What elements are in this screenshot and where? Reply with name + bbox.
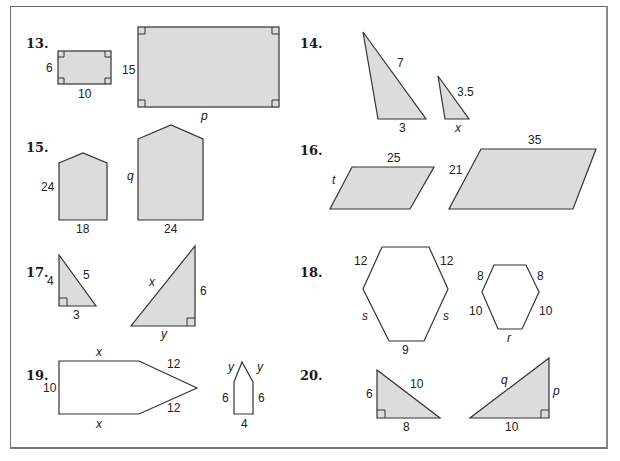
p20-small-horizontal-label: 8 [403,421,410,433]
p17-small-vertical-label: 4 [47,275,54,287]
p19-large-bottom-label: x [96,418,102,430]
p15-large-base-label: 24 [164,223,177,235]
p18-small-top-right-label: 8 [537,270,544,282]
p14-small-side-label: 3.5 [457,86,474,98]
problem-13-large-rectangle [138,27,279,107]
p15-small-height-label: 24 [41,181,54,193]
p20-small-vertical-label: 6 [366,388,373,400]
p20-large-horizontal-label: 10 [505,421,518,433]
p17-large-hypotenuse-label: x [149,276,155,288]
p14-small-base-label: x [455,122,461,134]
p19-large-left-label: 10 [43,382,56,394]
p13-large-width-label: p [201,110,208,122]
p14-large-base-label: 3 [399,122,406,134]
p16-large-side-label: 21 [449,164,462,176]
p17-large-horizontal-label: y [161,328,167,340]
problem-14-large-triangle [363,32,426,119]
p18-small-bottom-label: r [507,332,511,344]
p16-small-side-label: t [332,174,335,186]
p17-small-horizontal-label: 3 [73,309,80,321]
p14-large-side-label: 7 [397,57,404,69]
p18-small-top-left-label: 8 [477,270,484,282]
p18-small-bottom-left-label: 10 [469,305,482,317]
p16-small-top-label: 25 [387,152,400,164]
p13-large-height-label: 15 [122,64,135,76]
p19-small-right-slant-label: y [257,361,263,373]
problem-number-16: 16. [300,144,323,157]
problem-17-large-right-triangle [131,246,195,326]
problem-20-large-right-triangle [470,358,549,418]
p19-small-left-label: 6 [222,392,229,404]
p19-small-left-slant-label: y [228,361,234,373]
problem-18-small-hexagon [482,265,539,329]
figures-canvas [0,0,620,461]
problem-number-18: 18. [300,266,323,279]
p13-small-width-label: 10 [78,88,91,100]
p20-small-hypotenuse-label: 10 [410,378,423,390]
p20-large-vertical-label: p [553,385,560,397]
problem-18-large-hexagon [363,247,448,341]
p17-small-hypotenuse-label: 5 [83,269,90,281]
p18-large-bottom-right-label: s [443,310,449,322]
problem-16-large-parallelogram [449,149,596,209]
problem-number-13: 13. [26,37,49,50]
p18-large-bottom-label: 9 [402,344,409,356]
p15-small-base-label: 18 [76,223,89,235]
p19-large-upper-slant-label: 12 [167,358,180,370]
p20-large-hypotenuse-label: q [501,374,508,386]
problem-15-small-pentagon [59,153,107,220]
p18-large-top-right-label: 12 [440,255,453,267]
p18-large-top-left-label: 12 [354,255,367,267]
problem-15-large-pentagon [138,125,203,220]
p19-large-lower-slant-label: 12 [167,402,180,414]
p18-large-bottom-left-label: s [362,310,368,322]
problem-19-small-pentagon [234,362,253,414]
p13-small-height-label: 6 [46,62,53,74]
problem-number-14: 14. [300,37,323,50]
problem-number-15: 15. [26,141,49,154]
problem-20-small-right-triangle [377,370,440,418]
p19-small-right-label: 6 [258,392,265,404]
p19-large-top-label: x [96,346,102,358]
p15-large-height-label: q [127,170,134,182]
p17-large-vertical-label: 6 [200,285,207,297]
p18-small-bottom-right-label: 10 [539,305,552,317]
problem-number-17: 17. [26,266,49,279]
p19-small-base-label: 4 [241,418,248,430]
problem-number-20: 20. [300,369,323,382]
p16-large-top-label: 35 [528,134,541,146]
problem-16-small-parallelogram [330,167,434,209]
problem-13-small-rectangle [58,51,111,84]
problem-17-small-right-triangle [59,255,96,306]
